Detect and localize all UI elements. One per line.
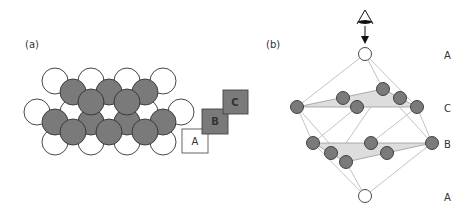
panel-b: (b) bbox=[266, 10, 451, 203]
cell-edges bbox=[297, 54, 432, 196]
panel-a-label: (a) bbox=[25, 39, 39, 50]
layer-labels: A C B A bbox=[444, 50, 451, 203]
square-c-label: C bbox=[231, 97, 238, 108]
stacking-key: A B C bbox=[182, 90, 248, 153]
layer-label-a-bottom: A bbox=[444, 192, 451, 203]
square-b-label: B bbox=[211, 116, 219, 127]
layer-label-c: C bbox=[444, 103, 451, 114]
eye-icon bbox=[357, 10, 373, 44]
panel-b-label: (b) bbox=[266, 39, 280, 50]
atoms-a bbox=[359, 48, 372, 203]
close-packing-diagram: (a) A B C (b) bbox=[0, 0, 476, 214]
square-a-label: A bbox=[192, 136, 199, 147]
layer-label-b: B bbox=[444, 139, 451, 150]
panel-a: (a) A B C bbox=[24, 39, 248, 155]
layer-label-a-top: A bbox=[444, 50, 451, 61]
